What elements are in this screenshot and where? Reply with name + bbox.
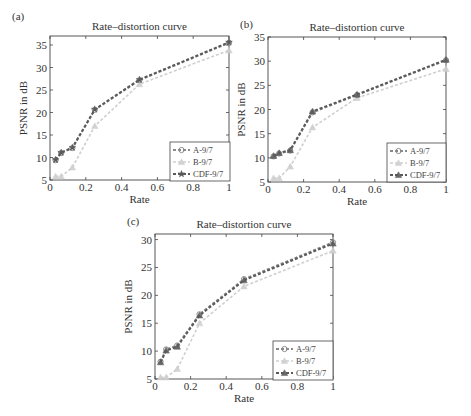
data-point — [196, 320, 202, 326]
data-point — [58, 173, 64, 179]
y-tick-label: 30 — [141, 234, 153, 246]
y-tick-label: 30 — [36, 62, 48, 74]
y-tick-label: 15 — [36, 129, 48, 141]
x-axis-label: Rate — [347, 195, 367, 207]
x-axis-label: Rate — [234, 392, 254, 404]
x-tick-label: 0.8 — [186, 181, 200, 193]
x-tick-label: 0.8 — [404, 183, 418, 195]
legend-label: B-9/7 — [410, 158, 429, 168]
y-tick-label: 25 — [141, 261, 153, 273]
y-tick-label: 20 — [141, 289, 153, 301]
y-tick-label: 30 — [254, 55, 266, 67]
legend: A-9/7B-9/7CDF-9/7 — [273, 341, 333, 380]
y-axis-label: PSNR in dB — [17, 81, 29, 135]
x-tick-label: 0.2 — [184, 380, 198, 392]
panel-label: (b) — [240, 18, 253, 31]
chart-b: (b)Rate–distortion curve00.20.40.60.8151… — [235, 18, 449, 207]
data-point — [174, 366, 180, 372]
y-tick-label: 10 — [36, 152, 48, 164]
data-point — [226, 47, 232, 53]
figure: (a)Rate–distortion curve00.20.40.60.8151… — [0, 0, 471, 416]
x-tick-label: 0.4 — [115, 181, 129, 193]
series-line — [274, 60, 446, 156]
legend-label: CDF-9/7 — [193, 169, 223, 179]
data-point — [69, 164, 75, 170]
y-tick-label: 20 — [254, 104, 266, 116]
x-tick-label: 1 — [443, 183, 449, 195]
x-tick-label: 0.6 — [151, 181, 165, 193]
y-tick-label: 35 — [254, 31, 266, 43]
chart-c: (c)Rate–distortion curve00.20.40.60.8151… — [122, 215, 336, 404]
data-point — [443, 66, 449, 72]
x-tick-label: 0.6 — [368, 183, 382, 195]
x-tick-label: 0.6 — [255, 380, 269, 392]
y-tick-label: 25 — [36, 84, 48, 96]
y-tick-label: 5 — [147, 373, 153, 385]
chart-a: (a)Rate–distortion curve00.20.40.60.8151… — [12, 10, 232, 205]
data-point — [276, 175, 282, 181]
x-tick-label: 0.2 — [297, 183, 311, 195]
legend-label: A-9/7 — [193, 145, 213, 155]
x-tick-label: 0.4 — [332, 183, 346, 195]
y-tick-label: 5 — [260, 176, 266, 188]
x-tick-label: 1 — [330, 380, 336, 392]
legend-label: CDF-9/7 — [410, 170, 440, 180]
x-tick-label: 0.4 — [219, 380, 233, 392]
y-tick-label: 15 — [141, 317, 153, 329]
x-tick-label: 1 — [226, 181, 232, 193]
y-tick-label: 5 — [42, 174, 48, 186]
legend: A-9/7B-9/7CDF-9/7 — [387, 143, 446, 182]
x-tick-label: 0 — [152, 380, 158, 392]
legend-label: CDF-9/7 — [296, 368, 326, 378]
data-point — [287, 163, 293, 169]
y-tick-label: 35 — [36, 39, 48, 51]
chart-title: Rate–distortion curve — [196, 218, 291, 230]
panel-label: (c) — [127, 215, 140, 228]
chart-title: Rate–distortion curve — [92, 20, 187, 32]
panel-label: (a) — [12, 10, 25, 23]
data-point — [163, 374, 169, 380]
data-point — [330, 248, 336, 254]
series-line — [274, 60, 446, 156]
data-point — [309, 124, 315, 130]
legend-label: A-9/7 — [296, 344, 316, 354]
x-tick-label: 0.2 — [79, 181, 93, 193]
y-tick-label: 10 — [141, 345, 153, 357]
legend: A-9/7B-9/7CDF-9/7 — [170, 142, 230, 181]
y-axis-label: PSNR in dB — [122, 279, 134, 333]
legend-label: B-9/7 — [296, 356, 315, 366]
y-tick-label: 25 — [254, 79, 266, 91]
legend-label: A-9/7 — [410, 146, 430, 156]
chart-title: Rate–distortion curve — [309, 21, 404, 33]
x-axis-label: Rate — [129, 193, 149, 205]
x-tick-label: 0.8 — [291, 380, 305, 392]
y-tick-label: 20 — [36, 107, 48, 119]
x-tick-label: 0 — [47, 181, 53, 193]
legend-label: B-9/7 — [193, 157, 212, 167]
y-tick-label: 15 — [254, 128, 266, 140]
y-axis-label: PSNR in dB — [235, 82, 247, 136]
y-tick-label: 10 — [254, 152, 266, 164]
x-tick-label: 0 — [265, 183, 271, 195]
